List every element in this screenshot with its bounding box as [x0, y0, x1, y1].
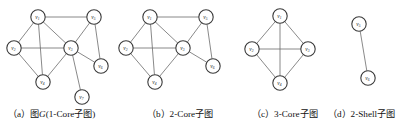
edge-v3-v6 — [189, 52, 207, 63]
edge-v1-v3 — [43, 22, 66, 43]
caption-b: （b）2-Core子图 — [147, 106, 213, 120]
node-v5: v5 — [87, 10, 101, 24]
node-subscript-v5: 5 — [359, 24, 361, 28]
graph-d: v5v6 — [330, 0, 407, 106]
edge-v5-v6 — [95, 24, 100, 59]
edge-v1-v2 — [257, 21, 276, 43]
node-subscript-v1: 1 — [150, 17, 152, 21]
node-subscript-v6: 6 — [213, 66, 215, 70]
edge-v2-v4 — [19, 53, 39, 76]
node-subscript-v1: 1 — [38, 17, 40, 21]
caption-a-italic-g: G — [39, 109, 46, 119]
edge-v3-v5 — [75, 23, 89, 42]
node-subscript-v1: 1 — [280, 16, 282, 20]
caption-b-text: 2-Core子图 — [170, 109, 214, 119]
node-group: v1v2v3v4v5v6 — [119, 10, 220, 89]
graph-a: v1v2v3v4v5v6v7 — [0, 0, 112, 106]
kcore-figure: v1v2v3v4v5v6v7 v1v2v3v4v5v6 v1v2v3v4 v5v… — [0, 0, 407, 131]
node-subscript-v3: 3 — [183, 48, 185, 52]
node-v5: v5 — [199, 10, 213, 24]
edge-group — [130, 17, 212, 77]
node-subscript-v4: 4 — [43, 82, 45, 86]
node-subscript-v2: 2 — [252, 49, 254, 53]
panel-b-2core: v1v2v3v4v5v6 — [112, 0, 227, 106]
edge-v1-v3 — [155, 22, 178, 43]
caption-c-text: 3-Core子图 — [274, 109, 318, 119]
edge-v1-v2 — [130, 23, 145, 43]
caption-a-text2: (1-Core子图) — [46, 109, 96, 119]
node-v3: v3 — [176, 41, 190, 55]
node-v2: v2 — [119, 41, 133, 55]
edge-v3-v6 — [77, 52, 95, 63]
edge-v1-v4 — [39, 24, 43, 75]
node-subscript-v4: 4 — [155, 82, 157, 86]
node-subscript-v3: 3 — [308, 49, 310, 53]
node-v2: v2 — [7, 41, 21, 55]
caption-row: （a）图G(1-Core子图) （b）2-Core子图 （c）3-Core子图 … — [0, 106, 407, 126]
edge-group — [18, 17, 100, 90]
caption-c-prefix: （c） — [252, 109, 274, 119]
node-subscript-v4: 4 — [280, 83, 282, 87]
node-v7: v7 — [75, 90, 89, 104]
node-subscript-v2: 2 — [14, 48, 16, 52]
node-v4: v4 — [148, 75, 162, 89]
node-v4: v4 — [273, 76, 287, 90]
edge-v3-v7 — [73, 55, 81, 90]
edge-v3-v5 — [187, 23, 201, 42]
caption-a-prefix: （a） — [8, 109, 30, 119]
node-v6: v6 — [361, 71, 375, 85]
node-subscript-v5: 5 — [94, 17, 96, 21]
edge-group — [360, 31, 367, 71]
caption-b-prefix: （b） — [147, 109, 170, 119]
node-v2: v2 — [245, 42, 259, 56]
node-v3: v3 — [301, 42, 315, 56]
edge-v1-v3 — [285, 21, 304, 43]
node-subscript-v5: 5 — [206, 17, 208, 21]
edge-v1-v4 — [151, 24, 155, 75]
node-subscript-v7: 7 — [82, 97, 84, 101]
node-v1: v1 — [143, 10, 157, 24]
panel-a-graph-g: v1v2v3v4v5v6v7 — [0, 0, 112, 106]
edge-v2-v4 — [257, 55, 276, 78]
edge-v5-v6 — [360, 31, 367, 71]
caption-a: （a）图G(1-Core子图) — [8, 106, 95, 120]
node-v3: v3 — [64, 41, 78, 55]
edge-group — [257, 21, 304, 77]
panel-d-2shell: v5v6 — [330, 0, 407, 106]
edge-v3-v4 — [160, 54, 179, 77]
edge-v3-v4 — [285, 55, 304, 78]
edge-v3-v4 — [48, 54, 67, 77]
caption-d-prefix: （d） — [328, 109, 351, 119]
caption-d-text: 2-Shell子图 — [351, 109, 396, 119]
node-v6: v6 — [206, 59, 220, 73]
graph-c: v1v2v3v4 — [240, 0, 325, 106]
edge-v2-v4 — [131, 53, 151, 76]
panel-c-3core: v1v2v3v4 — [240, 0, 325, 106]
edge-v1-v2 — [18, 23, 33, 43]
caption-c: （c）3-Core子图 — [252, 106, 318, 120]
node-subscript-v6: 6 — [368, 78, 370, 82]
graph-b: v1v2v3v4v5v6 — [112, 0, 227, 106]
caption-a-text1: 图 — [30, 109, 39, 119]
node-subscript-v2: 2 — [126, 48, 128, 52]
edge-v5-v6 — [207, 24, 212, 59]
node-subscript-v3: 3 — [71, 48, 73, 52]
caption-d: （d）2-Shell子图 — [328, 106, 395, 120]
node-v1: v1 — [273, 9, 287, 23]
node-v5: v5 — [352, 17, 366, 31]
node-v4: v4 — [36, 75, 50, 89]
node-subscript-v6: 6 — [101, 66, 103, 70]
node-v6: v6 — [94, 59, 108, 73]
node-v1: v1 — [31, 10, 45, 24]
